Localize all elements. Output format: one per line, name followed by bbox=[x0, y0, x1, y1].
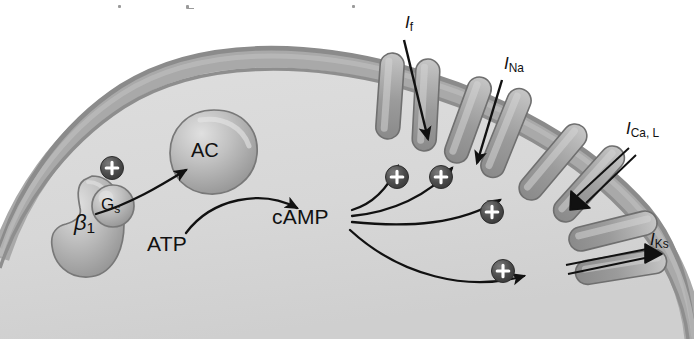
atp-text: ATP bbox=[147, 232, 187, 255]
gs-subscript: s bbox=[114, 202, 120, 216]
plus-marker bbox=[492, 260, 515, 283]
channel-rod[interactable] bbox=[375, 52, 405, 139]
gs-symbol: G bbox=[101, 195, 114, 214]
current-label-if: If bbox=[405, 14, 413, 34]
camp-label: cAMP bbox=[272, 206, 329, 227]
current-label-ina: INa bbox=[504, 55, 524, 75]
plus-marker bbox=[386, 166, 409, 189]
beta1-symbol: β bbox=[74, 210, 87, 235]
current-label-iks: IKs bbox=[650, 231, 669, 251]
ac-symbol: AC bbox=[191, 139, 219, 161]
if-subscript: f bbox=[410, 20, 413, 34]
figure-canvas: β1 Gs AC ATP cAMP If INa ICa, L IKs bbox=[0, 0, 694, 339]
plus-marker bbox=[481, 201, 504, 224]
g-protein-label: Gs bbox=[101, 196, 120, 216]
current-label-ical: ICa, L bbox=[626, 120, 659, 140]
channel-rod[interactable] bbox=[412, 58, 441, 151]
plus-marker bbox=[101, 157, 124, 180]
ical-subscript: Ca, L bbox=[631, 126, 659, 140]
atp-label: ATP bbox=[147, 233, 187, 254]
camp-text: cAMP bbox=[272, 205, 329, 228]
ina-subscript: Na bbox=[509, 61, 524, 75]
adenylyl-cyclase-label: AC bbox=[191, 140, 219, 160]
plus-marker bbox=[430, 166, 453, 189]
beta1-subscript: 1 bbox=[87, 219, 96, 236]
beta1-receptor-label: β1 bbox=[74, 212, 95, 236]
diagram-svg bbox=[0, 0, 694, 339]
iks-subscript: Ks bbox=[655, 237, 669, 251]
